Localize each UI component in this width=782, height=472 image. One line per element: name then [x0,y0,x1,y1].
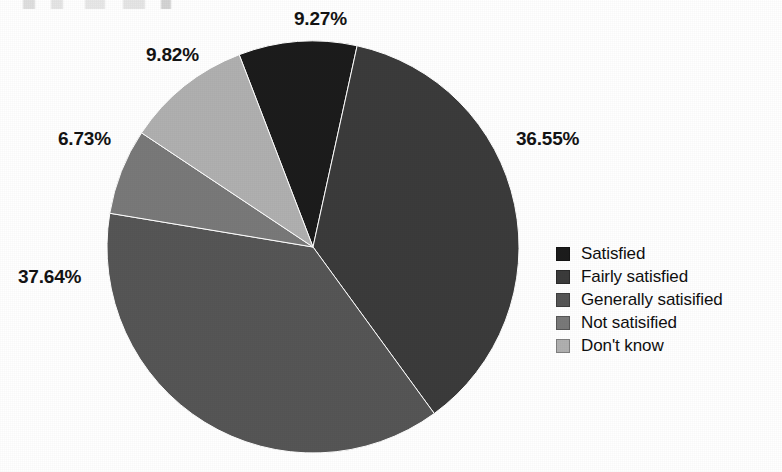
slice-label-generally-satisified: 37.64% [18,266,81,288]
legend-item-generally-satisified[interactable]: Generally satisified [556,289,776,311]
legend-swatch-satisfied [556,247,570,261]
slice-label-not-satisified: 6.73% [58,128,111,150]
cropped-caption-artifact [18,0,188,9]
chart-legend: Satisfied Fairly satisfied Generally sat… [556,243,776,358]
legend-swatch-dont-know [556,339,570,353]
pie-slice-group [107,41,519,453]
legend-label-satisfied: Satisfied [581,244,645,264]
legend-label-dont-know: Don't know [581,336,664,356]
legend-item-satisfied[interactable]: Satisfied [556,243,776,265]
slice-label-fairly-satisfied: 36.55% [516,128,579,150]
pie-chart-svg [106,40,520,454]
slice-label-satisfied: 9.27% [294,8,347,30]
legend-swatch-fairly-satisfied [556,270,570,284]
legend-label-fairly-satisfied: Fairly satisfied [581,267,688,287]
pie-chart-figure: 9.27% 36.55% 37.64% 6.73% 9.82% Satisfie… [0,0,782,472]
legend-item-fairly-satisfied[interactable]: Fairly satisfied [556,266,776,288]
legend-label-not-satisified: Not satisified [581,313,677,333]
pie-chart [106,40,520,454]
legend-item-not-satisified[interactable]: Not satisified [556,312,776,334]
legend-swatch-not-satisified [556,316,570,330]
slice-label-dont-know: 9.82% [146,44,199,66]
legend-swatch-generally-satisified [556,293,570,307]
legend-label-generally-satisified: Generally satisified [581,290,723,310]
legend-item-dont-know[interactable]: Don't know [556,335,776,357]
